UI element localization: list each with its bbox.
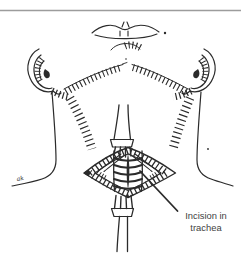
neck-shading-left — [70, 98, 92, 149]
bottom-retractor-handle — [117, 217, 128, 252]
wound-opening — [84, 148, 176, 198]
jawline-right-shading — [133, 68, 186, 93]
left-ear-concha — [44, 69, 50, 78]
neck-outline-left — [12, 92, 56, 186]
chin-crease — [111, 43, 141, 50]
beauty-mark-dot — [164, 32, 166, 34]
bottom-retractor-tines — [115, 196, 133, 209]
left-ear — [28, 49, 70, 97]
lips — [92, 22, 166, 39]
illustrator-signature: ak — [16, 174, 25, 182]
top-retractor-handle — [114, 105, 131, 140]
chin-apex-mark — [123, 63, 128, 65]
chin-apex-dot — [125, 58, 127, 60]
tracheal-incision — [127, 154, 130, 190]
lips-outline — [92, 22, 159, 39]
neck-freckle-dot — [207, 148, 209, 150]
leader-line — [140, 171, 178, 211]
bottom-retractor — [112, 196, 134, 252]
neck-outline-right — [197, 92, 233, 186]
right-ear-concha — [193, 69, 199, 78]
figure-panel: Incision in trachea ak — [0, 0, 241, 260]
neck-shading-right — [173, 98, 190, 149]
bottom-retractor-head — [112, 209, 134, 217]
annotation-line-1: Incision in — [185, 210, 227, 221]
jawline-left-shading — [66, 68, 121, 93]
top-retractor-head — [111, 140, 134, 148]
medical-illustration: Incision in trachea ak — [0, 0, 241, 260]
jawline — [64, 58, 188, 92]
right-ear — [173, 49, 215, 97]
annotation-line-2: trachea — [190, 222, 222, 233]
